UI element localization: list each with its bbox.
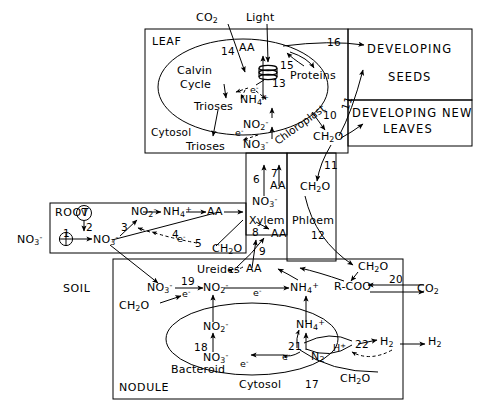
n2-label: N2 xyxy=(311,351,325,364)
electron-root-label: e- xyxy=(177,234,186,244)
arrow-aa-to-developing-seeds xyxy=(283,43,364,46)
step-8-label: 8 xyxy=(252,227,259,238)
no3-root-label: NO3- xyxy=(93,234,119,247)
developing-seeds-line2: SEEDS xyxy=(388,72,432,84)
arrow-nh4-to-aa-nodule xyxy=(278,269,298,280)
rcoo-label: R-COO- xyxy=(334,281,374,292)
no2-nodule-cytosol-label: NO2- xyxy=(203,282,229,295)
arrow-light-to-thylakoid xyxy=(267,24,268,62)
step-12-label: 12 xyxy=(311,230,325,241)
step-17-label: 17 xyxy=(305,379,319,390)
aa-root-label: AA xyxy=(207,206,223,217)
electron-bacteroid-a-label: e- xyxy=(240,359,249,369)
ch2o-phloem-label: CH2O xyxy=(300,181,330,194)
step-2-label: 2 xyxy=(86,222,93,233)
aa-xylem-label: AA xyxy=(271,228,287,239)
arrow-electron-to-trioses-upper xyxy=(236,88,248,92)
electron-bacteroid-b-label: e- xyxy=(282,352,291,362)
hplus-label: H+ xyxy=(333,343,346,353)
no3-soil-input-label: NO3- xyxy=(17,234,43,247)
trioses-chloroplast-label: Trioses xyxy=(194,101,233,112)
nh4-chloroplast-label: NH4+ xyxy=(240,94,269,107)
no3-transport-label: NO3- xyxy=(252,196,278,209)
ch2o-nodule-phloem-label: CH2O xyxy=(358,261,388,274)
aa-transport-label: AA xyxy=(270,180,286,191)
step-13-label: 13 xyxy=(272,78,286,89)
step-11-lower-label: 11 xyxy=(324,160,338,171)
ch2o-leaf-label: CH2O xyxy=(313,131,343,144)
proteins-label: Proteins xyxy=(290,70,336,81)
h2-inner-label: H2 xyxy=(380,336,394,349)
step-7-label: 7 xyxy=(271,168,278,179)
step-6-label: 6 xyxy=(253,174,260,185)
nitrogen-metabolism-diagram: LEAF CO2 Light 14 13 15 16 10 11 11 Calv… xyxy=(0,0,477,419)
arrow-h2-recycle-dashed xyxy=(352,350,392,357)
step-3-label: 3 xyxy=(121,222,128,233)
aa-nodule-transfer-label: AA xyxy=(246,263,262,274)
nh4-bacteroid-label: NH4+ xyxy=(296,319,325,332)
no2-root-label: NO2- xyxy=(131,206,157,219)
arrow-soil-ch2o-reductant xyxy=(160,296,181,303)
co2-input-label: CO2 xyxy=(196,12,218,25)
step-21-label: 21 xyxy=(288,341,302,352)
step-22-label: 22 xyxy=(355,339,369,350)
electron-cytosol-nodule-label: e- xyxy=(253,288,262,298)
calvin-cycle-line2: Cycle xyxy=(180,79,211,90)
vacuole-letter-label: V xyxy=(81,208,88,218)
h2-outer-label: H2 xyxy=(428,336,442,349)
developing-leaves-line2: LEAVES xyxy=(383,124,433,136)
calvin-cycle-line1: Calvin xyxy=(177,65,212,76)
phloem-label: Phloem xyxy=(292,215,334,226)
nh4-nodule-cytosol-label: NH4+ xyxy=(290,282,319,295)
step-19-label: 19 xyxy=(181,276,195,287)
ch2o-soil-label: CH2O xyxy=(119,300,149,313)
nh4-root-label: NH4+ xyxy=(163,206,192,219)
step-1-label: 1 xyxy=(63,228,70,239)
ureides-label: Ureides xyxy=(197,264,240,275)
light-input-label: Light xyxy=(246,12,274,23)
xylem-label: Xylem xyxy=(249,215,285,226)
aa-chloroplast-label: AA xyxy=(239,42,255,53)
trioses-cytosol-label: Trioses xyxy=(186,141,225,152)
developing-leaves-line1: DEVELOPING NEW xyxy=(352,108,472,120)
step-14-label: 14 xyxy=(221,46,235,57)
no3-leaf-cytosol-label: NO3- xyxy=(243,139,269,152)
bacteroid-label: Bacteroid xyxy=(171,364,225,375)
developing-seeds-box-outline xyxy=(348,29,472,100)
nodule-cytosol-label: Cytosol xyxy=(239,379,281,390)
no3-nodule-cytosol-label: NO3- xyxy=(147,282,173,295)
ch2o-bacteroid-label: CH2O xyxy=(340,373,370,386)
step-9-label: 9 xyxy=(259,246,266,257)
co2-nodule-label: CO2 xyxy=(417,283,439,296)
step-5-label: 5 xyxy=(195,238,202,249)
nodule-label: NODULE xyxy=(119,382,169,393)
soil-label: SOIL xyxy=(63,283,90,294)
leaf-cytosol-label: Cytosol xyxy=(151,127,191,138)
no2-bacteroid-label: NO2- xyxy=(203,321,229,334)
arrow-root-to-soil-no3 xyxy=(110,245,158,283)
step-16-label: 16 xyxy=(327,37,341,48)
electron-19-label: e- xyxy=(182,289,191,299)
leaf-label: LEAF xyxy=(152,36,181,47)
no2-chloroplast-label: NO2- xyxy=(243,119,269,132)
developing-seeds-line1: DEVELOPING xyxy=(367,44,452,56)
step-20-label: 20 xyxy=(389,274,403,285)
ch2o-root-label: CH2O xyxy=(212,243,242,256)
arrow-calvin-to-trioses xyxy=(224,84,226,98)
